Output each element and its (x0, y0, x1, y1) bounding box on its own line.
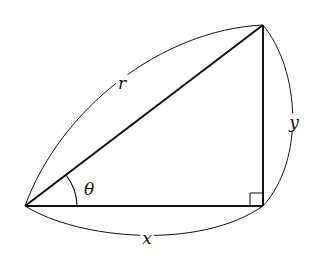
hypotenuse-line (25, 25, 263, 206)
right-angle-marker (250, 193, 263, 206)
horizontal-leg-label: x (140, 230, 154, 247)
vertical-leg-label: y (287, 114, 301, 131)
angle-label: θ (82, 181, 96, 198)
angle-arc (66, 175, 77, 206)
triangle-diagram (0, 0, 312, 265)
hypotenuse-label: r (116, 75, 128, 92)
